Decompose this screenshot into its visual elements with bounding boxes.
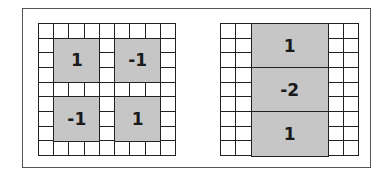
grid-cell: [84, 140, 101, 156]
right-kernel-grid: 1-21: [220, 23, 358, 155]
grid-cell: [145, 140, 162, 156]
grid-cell: [235, 140, 252, 156]
grid-cell: [327, 140, 344, 156]
grid-cell: [114, 140, 131, 156]
grid-cell: [53, 140, 70, 156]
weighted-region: 1: [251, 111, 329, 157]
grid-cell: [160, 140, 177, 156]
weighted-region: -1: [53, 96, 100, 142]
grid-cell: [129, 140, 146, 156]
grid-cell: [343, 140, 360, 156]
grid-cell: [220, 140, 237, 156]
grid-cell: [99, 140, 116, 156]
weighted-region: 1: [251, 23, 329, 69]
grid-cell: [38, 140, 55, 156]
weighted-region: 1: [114, 96, 161, 142]
weighted-region: -2: [251, 67, 329, 113]
grid-cell: [68, 140, 85, 156]
weighted-region: -1: [114, 38, 161, 84]
left-kernel-grid: 1-1-11: [38, 23, 175, 155]
weighted-region: 1: [53, 38, 100, 84]
